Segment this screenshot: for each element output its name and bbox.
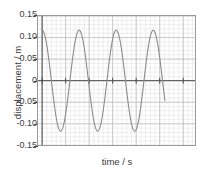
y-tick-label: -0.10: [3, 118, 37, 128]
y-tick-label: -0.05: [3, 96, 37, 106]
y-tick-mark: [34, 146, 38, 147]
plot-area: [37, 15, 196, 146]
data-curve: [38, 16, 195, 145]
x-axis-label: time / s: [37, 156, 197, 167]
y-tick-label: 0.15: [3, 9, 37, 19]
y-tick-label: 0.10: [3, 31, 37, 41]
y-tick-label: -0.15: [3, 140, 37, 150]
y-tick-label: 0.05: [3, 53, 37, 63]
chart-figure: displacement / m time / s 0.150.100.050-…: [0, 0, 208, 175]
